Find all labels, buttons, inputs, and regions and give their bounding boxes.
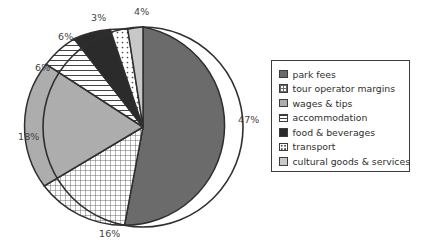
legend-swatch-food-and-beverages-icon xyxy=(279,128,288,137)
legend-label-park-fees: park fees xyxy=(293,69,336,80)
slice-value-label-food-and-beverages: 6% xyxy=(58,31,73,42)
legend-item-accommodation[interactable]: accommodation xyxy=(279,111,404,125)
legend-item-cultural-goods-and-services[interactable]: cultural goods & services xyxy=(279,155,404,169)
legend-swatch-transport-icon xyxy=(279,143,288,152)
legend-label-wages-and-tips: wages & tips xyxy=(293,98,353,109)
legend-item-food-and-beverages[interactable]: food & beverages xyxy=(279,125,404,139)
legend-label-accommodation: accommodation xyxy=(293,112,368,123)
pie-slices xyxy=(25,27,243,227)
legend-item-tour-operator-margins[interactable]: tour operator margins xyxy=(279,82,404,96)
legend-label-cultural-goods-and-services: cultural goods & services xyxy=(293,156,411,167)
slice-value-label-park-fees: 47% xyxy=(238,114,259,125)
slice-value-label-cultural-goods-and-services: 4% xyxy=(134,6,149,17)
chart-legend: park fees tour operator margins wages & … xyxy=(271,60,410,172)
legend-swatch-wages-and-tips-icon xyxy=(279,99,288,108)
legend-item-park-fees[interactable]: park fees xyxy=(279,67,404,81)
slice-value-label-transport: 3% xyxy=(91,12,106,23)
slice-value-label-wages-and-tips: 18% xyxy=(18,131,39,142)
legend-label-food-and-beverages: food & beverages xyxy=(293,127,376,138)
legend-swatch-tour-operator-margins-icon xyxy=(279,84,288,93)
legend-swatch-cultural-goods-and-services-icon xyxy=(279,157,288,166)
legend-label-transport: transport xyxy=(293,141,336,152)
slice-value-label-tour-operator-margins: 16% xyxy=(99,228,120,239)
legend-swatch-accommodation-icon xyxy=(279,114,288,123)
legend-item-transport[interactable]: transport xyxy=(279,140,404,154)
slice-value-label-accommodation: 6% xyxy=(35,62,50,73)
legend-label-tour-operator-margins: tour operator margins xyxy=(293,83,396,94)
legend-item-wages-and-tips[interactable]: wages & tips xyxy=(279,96,404,110)
legend-swatch-park-fees-icon xyxy=(279,70,288,79)
pie-chart-figure: 47% 16% 18% 6% 6% 3% 4% park fees tour o… xyxy=(0,0,424,250)
